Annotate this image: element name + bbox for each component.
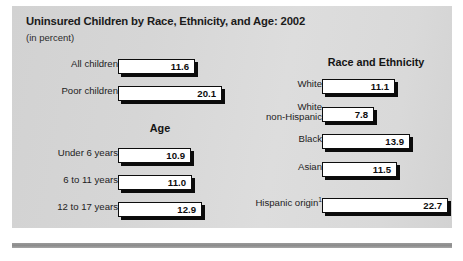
bar-label-line2: non-Hispanic xyxy=(266,111,322,122)
bar-label: White xyxy=(172,79,322,90)
bar-label: Poor children xyxy=(0,86,118,97)
bar-label: Asian xyxy=(172,162,322,173)
bar-white-non-hispanic: 7.8 xyxy=(322,107,374,122)
bar-row: Hispanic origin1 xyxy=(172,198,322,218)
chart-panel: Uninsured Children by Race, Ethnicity, a… xyxy=(12,6,452,228)
bar-value: 7.8 xyxy=(355,108,368,121)
bar-all-children: 11.6 xyxy=(118,59,195,74)
bar-value: 11.1 xyxy=(371,80,389,93)
bar-white: 11.1 xyxy=(322,79,395,94)
bar-label-text: Hispanic origin xyxy=(255,197,318,208)
bar-label: All children xyxy=(0,59,118,70)
bar-row: Under 6 years xyxy=(0,148,118,168)
footer-divider xyxy=(12,243,452,248)
bar-label: Whitenon-Hispanic xyxy=(172,102,322,123)
bar-row: All children xyxy=(0,59,118,79)
section-heading-race: Race and Ethnicity xyxy=(288,56,463,68)
bar-row: Whitenon-Hispanic xyxy=(172,107,322,127)
bar-hispanic-origin: 22.7 xyxy=(322,198,448,213)
bar-row: 6 to 11 years xyxy=(0,175,118,195)
chart-subtitle: (in percent) xyxy=(26,32,74,43)
bar-black: 13.9 xyxy=(322,134,410,149)
bar-label: Black xyxy=(172,134,322,145)
bar-label: Hispanic origin1 xyxy=(172,198,322,209)
bar-value: 13.9 xyxy=(385,135,404,148)
bar-row: 12 to 17 years xyxy=(0,202,118,222)
chart-title: Uninsured Children by Race, Ethnicity, a… xyxy=(26,15,305,27)
bar-value: 11.6 xyxy=(171,60,189,73)
bar-value: 22.7 xyxy=(423,199,442,212)
chart-figure: Uninsured Children by Race, Ethnicity, a… xyxy=(0,0,463,261)
bar-row: Poor children xyxy=(0,86,118,106)
bar-row: Asian xyxy=(172,162,322,182)
bar-value: 11.5 xyxy=(373,163,391,176)
bar-label: 12 to 17 years xyxy=(0,202,118,213)
bar-row: White xyxy=(172,79,322,99)
bar-asian: 11.5 xyxy=(322,162,397,177)
bar-label: 6 to 11 years xyxy=(0,175,118,186)
bar-label: Under 6 years xyxy=(0,148,118,159)
bar-row: Black xyxy=(172,134,322,154)
